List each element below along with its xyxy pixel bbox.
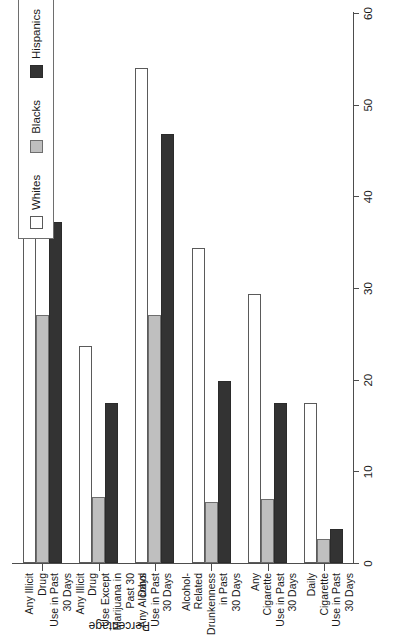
category-label-line: Any Cigarette: [249, 573, 274, 635]
category-label: Any CigaretteUse in Past30 Days: [249, 569, 299, 635]
legend: WhitesBlacksHispanics: [18, 0, 54, 239]
category-label-line: in Past: [217, 573, 230, 635]
bar-hispanics: [218, 381, 231, 563]
bar-blacks: [92, 497, 105, 563]
rotated-figure-wrapper: 0102030405060 Percentage Any Illicit Dru…: [0, 0, 409, 635]
bar-hispanics: [330, 529, 343, 563]
bar-hispanics: [105, 403, 118, 563]
category-label-line: Daily Cigarette: [305, 573, 330, 635]
legend-swatch-hispanics: [30, 65, 43, 78]
category-label-line: 30 Days: [230, 573, 243, 635]
category-label-line: Use in Past: [330, 573, 343, 635]
legend-label: Hispanics: [30, 9, 42, 59]
bar-blacks: [317, 539, 330, 563]
bar-blacks: [36, 315, 49, 563]
category-label-line: 30 Days: [61, 573, 74, 635]
bar-whites: [135, 68, 148, 563]
legend-item: Blacks: [30, 100, 43, 153]
bar-group: [70, 13, 126, 563]
bar-hispanics: [274, 403, 287, 563]
category-label-line: Any Alcohol: [136, 573, 149, 635]
legend-swatch-blacks: [30, 140, 43, 153]
value-tick-label: 0: [361, 560, 376, 566]
value-tick-label: 20: [361, 374, 376, 387]
value-axis-line: [12, 563, 354, 564]
value-tick-label: 30: [361, 282, 376, 295]
plot-area: [14, 13, 352, 563]
category-label-line: Related: [192, 573, 205, 635]
legend-item: Whites: [30, 175, 43, 229]
bar-chart-figure: 0102030405060 Percentage Any Illicit Dru…: [0, 0, 409, 635]
value-tick-label: 10: [361, 465, 376, 478]
bar-whites: [304, 403, 317, 563]
value-tick-label: 60: [361, 7, 376, 20]
category-label: Any AlcoholUse in Past30 Days: [136, 569, 174, 635]
category-label-line: Use Except: [99, 573, 112, 635]
bar-whites: [79, 346, 92, 563]
legend-item: Hispanics: [30, 9, 43, 78]
category-label: Alcohol-RelatedDrunkennessin Past30 Days: [180, 569, 243, 635]
category-label-line: 30 Days: [286, 573, 299, 635]
bar-group: [183, 13, 239, 563]
category-label-line: 30 Days: [161, 573, 174, 635]
category-label-line: Drunkenness: [205, 573, 218, 635]
bar-blacks: [205, 503, 218, 564]
legend-swatch-whites: [30, 216, 43, 229]
legend-label: Whites: [30, 175, 42, 210]
value-tick-label: 40: [361, 190, 376, 203]
bar-blacks: [148, 315, 161, 563]
bar-group: [127, 13, 183, 563]
bar-whites: [248, 294, 261, 563]
legend-label: Blacks: [30, 100, 42, 134]
value-tick-label: 50: [361, 99, 376, 112]
category-label-line: Use in Past: [149, 573, 162, 635]
category-label-line: Alcohol-: [180, 573, 193, 635]
bar-blacks: [261, 499, 274, 563]
category-label-line: Any Illicit Drug: [74, 573, 99, 635]
category-label-line: Use in Past: [274, 573, 287, 635]
bar-whites: [192, 248, 205, 563]
category-label-line: Any Illicit Drug: [23, 573, 48, 635]
category-axis-line: [353, 12, 354, 564]
category-label: Any Illicit DrugUse in Past30 Days: [23, 569, 73, 635]
bar-hispanics: [161, 134, 174, 563]
category-label: Daily CigaretteUse in Past30 Days: [305, 569, 355, 635]
bar-group: [296, 13, 352, 563]
category-label-line: Marijuana in: [111, 573, 124, 635]
category-label-line: 30 Days: [343, 573, 356, 635]
bar-group: [239, 13, 295, 563]
category-label-line: Use in Past: [48, 573, 61, 635]
bar-hispanics: [49, 222, 62, 563]
